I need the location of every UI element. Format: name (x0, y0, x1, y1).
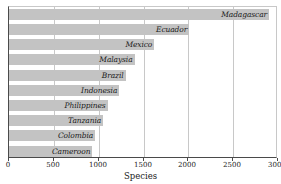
bar-label: Philippines (65, 100, 108, 111)
x-tick-label: 3000 (268, 161, 281, 169)
plot-area: MadagascarEcuadorMexicoMalaysiaBrazilInd… (8, 6, 277, 158)
bar-row: Tanzania (9, 115, 276, 126)
bar-label: Tanzania (68, 115, 103, 126)
bar-label: Mexico (125, 39, 154, 50)
x-axis-title: Species (0, 171, 281, 181)
bar-label: Madagascar (221, 9, 269, 20)
bar-row: Malaysia (9, 54, 276, 65)
bar-row: Madagascar (9, 9, 276, 20)
x-tick-label: 2000 (178, 161, 196, 169)
bar-row: Brazil (9, 70, 276, 81)
bars-layer: MadagascarEcuadorMexicoMalaysiaBrazilInd… (9, 7, 276, 157)
x-tick-label: 1500 (134, 161, 152, 169)
bar-label: Cameroon (52, 146, 92, 157)
bar-row: Philippines (9, 100, 276, 111)
bar-row: Ecuador (9, 24, 276, 35)
bar-row: Indonesia (9, 85, 276, 96)
x-tick-label: 500 (46, 161, 59, 169)
bar-label: Brazil (102, 70, 126, 81)
x-tick-label: 0 (6, 161, 10, 169)
x-axis-tick-labels: 050010001500200025003000 (8, 161, 277, 171)
chart-title-remnant (150, 0, 281, 2)
x-tick-label: 1000 (89, 161, 107, 169)
x-tick-label: 2500 (223, 161, 241, 169)
bar-row: Cameroon (9, 146, 276, 157)
bar-row: Colombia (9, 130, 276, 141)
bar-chart: MadagascarEcuadorMexicoMalaysiaBrazilInd… (0, 0, 281, 184)
bar-label: Indonesia (81, 85, 119, 96)
bar-label: Ecuador (156, 24, 189, 35)
bar-row: Mexico (9, 39, 276, 50)
bar-label: Colombia (58, 130, 95, 141)
bar-label: Malaysia (99, 54, 134, 65)
